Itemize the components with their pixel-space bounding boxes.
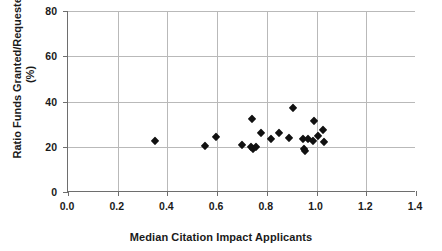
x-axis-tick [118,191,119,196]
x-axis-tick-label: 0.0 [47,201,87,211]
x-axis-tick-label: 0.2 [97,201,137,211]
data-point [285,134,294,143]
data-point [320,138,329,147]
x-axis-tick-label: 1.0 [296,201,336,211]
gridline-vertical [167,11,168,191]
gridline-vertical [118,11,119,191]
data-point [275,128,284,137]
data-point [212,132,221,141]
y-axis-title-line1: Ratio Funds Granted/Requested [11,0,23,159]
y-axis-tick [63,56,68,57]
y-axis-tick-label: 40 [11,97,57,107]
y-axis-tick [63,102,68,103]
data-point [256,129,265,138]
x-axis-tick-label: 1.2 [345,201,385,211]
gridline-vertical [366,11,367,191]
data-point [248,115,257,124]
x-axis-title: Median Citation Impact Applicants [0,231,442,243]
x-axis-tick [416,191,417,196]
x-axis-tick-label: 0.6 [196,201,236,211]
gridline-vertical [267,11,268,191]
gridline-horizontal [68,102,415,103]
gridline-horizontal [68,56,415,57]
gridline-vertical [317,11,318,191]
y-axis-title-line2: (%) [23,66,35,83]
plot-top-border [68,11,415,12]
data-point [151,136,160,145]
x-axis-tick [68,191,69,196]
chart-figure: Ratio Funds Granted/Requested (%) Median… [0,0,442,251]
x-axis-tick-label: 0.8 [246,201,286,211]
y-axis-tick-label: 20 [11,142,57,152]
data-point [289,103,298,112]
x-axis-tick-label: 0.4 [146,201,186,211]
y-axis-tick [63,147,68,148]
x-axis-tick [366,191,367,196]
x-axis-tick [267,191,268,196]
gridline-vertical [217,11,218,191]
y-axis-tick-label: 0 [11,187,57,197]
data-point [238,141,247,150]
x-axis-tick [317,191,318,196]
x-axis-tick [217,191,218,196]
x-axis-tick [167,191,168,196]
data-point [200,142,209,151]
x-axis-tick-label: 1.4 [395,201,435,211]
y-axis-tick-label: 80 [11,6,57,16]
y-axis-tick-label: 60 [11,51,57,61]
plot-area [67,11,415,192]
